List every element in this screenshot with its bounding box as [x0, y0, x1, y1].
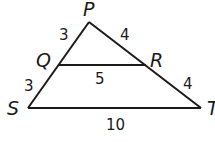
vertex-label-t: T	[207, 97, 215, 119]
triangle-edges	[28, 22, 201, 108]
length-label-pr: 4	[120, 26, 130, 44]
length-label-qs: 3	[24, 77, 34, 95]
length-label-rt: 4	[183, 75, 193, 93]
vertex-label-p: P	[83, 0, 95, 20]
triangle-diagram: P Q R S T 3 3 4 4 5 10	[0, 0, 215, 142]
vertex-label-q: Q	[36, 49, 51, 71]
vertex-label-r: R	[150, 49, 163, 71]
length-label-st: 10	[106, 116, 125, 134]
vertex-label-s: S	[7, 97, 19, 119]
length-label-qr: 5	[95, 70, 105, 88]
length-label-pq: 3	[59, 26, 69, 44]
